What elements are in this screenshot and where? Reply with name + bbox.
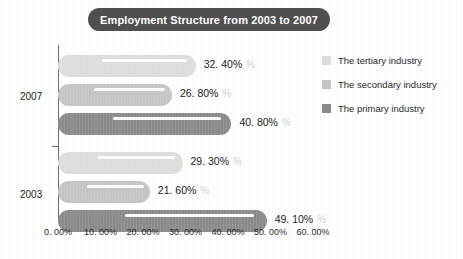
chart-title-pill: Employment Structure from 2003 to 2007: [88, 8, 330, 31]
x-axis-tick-label: 30. 00%: [169, 227, 202, 237]
bar-value-label: 21. 60%%: [158, 184, 209, 196]
bar-highlight: [98, 156, 175, 159]
percent-glyph-icon: %: [233, 156, 242, 167]
bar-value-label: 29. 30%%: [191, 155, 242, 167]
x-axis-tick-label: 0. 00%: [44, 227, 72, 237]
percent-glyph-icon: %: [317, 214, 326, 225]
x-axis-tick-label: 10. 00%: [84, 227, 117, 237]
legend: The tertiary industryThe secondary indus…: [322, 55, 437, 114]
bar-chart: Employment Structure from 2003 to 2007 2…: [0, 0, 463, 259]
legend-swatch-icon: [322, 80, 331, 89]
bar-highlight: [87, 185, 144, 188]
bar-value-label: 40. 80%%: [239, 116, 290, 128]
x-axis-labels: 0. 00%10. 00%20. 00%30. 00%40. 00%50. 00…: [0, 227, 463, 241]
legend-swatch-icon: [322, 56, 331, 65]
bar-value-label: 32. 40%%: [204, 58, 255, 70]
x-axis-tick-label: 20. 00%: [126, 227, 159, 237]
bar-2007-the-secondary-industry[interactable]: [58, 84, 172, 106]
bar-2007-the-tertiary-industry[interactable]: [58, 55, 196, 77]
bar-highlight: [113, 117, 221, 120]
percent-glyph-icon: %: [200, 185, 209, 196]
legend-item[interactable]: The secondary industry: [322, 79, 437, 90]
legend-item[interactable]: The primary industry: [322, 103, 437, 114]
percent-glyph-icon: %: [282, 117, 291, 128]
legend-label: The tertiary industry: [338, 55, 422, 66]
x-axis-tick-label: 50. 00%: [254, 227, 287, 237]
percent-glyph-icon: %: [222, 88, 231, 99]
bar-highlight: [94, 88, 165, 91]
legend-swatch-icon: [322, 104, 331, 113]
legend-label: The secondary industry: [338, 79, 437, 90]
x-axis-tick-label: 60. 00%: [296, 227, 329, 237]
y-axis-label-2003: 2003: [20, 189, 42, 200]
bar-highlight: [102, 59, 187, 62]
legend-label: The primary industry: [338, 103, 425, 114]
percent-glyph-icon: %: [246, 59, 255, 70]
y-axis-group-tick: [52, 146, 58, 147]
bar-2007-the-primary-industry[interactable]: [58, 113, 231, 135]
bar-2003-the-secondary-industry[interactable]: [58, 181, 150, 203]
bar-value-label: 49. 10%%: [275, 213, 326, 225]
legend-item[interactable]: The tertiary industry: [322, 55, 437, 66]
y-axis-label-2007: 2007: [20, 91, 42, 102]
bar-value-label: 26. 80%%: [180, 87, 231, 99]
chart-title: Employment Structure from 2003 to 2007: [100, 14, 318, 26]
bar-highlight: [125, 214, 254, 217]
bar-2003-the-tertiary-industry[interactable]: [58, 152, 183, 174]
x-axis-tick-label: 40. 00%: [211, 227, 244, 237]
